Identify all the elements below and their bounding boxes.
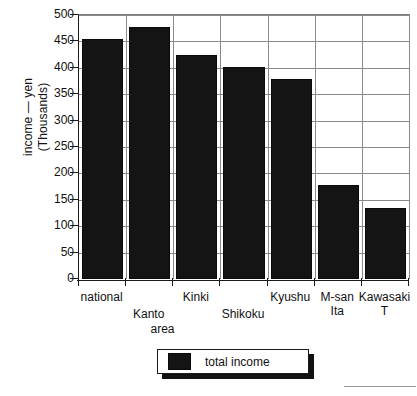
x-tick-mark-5: [314, 278, 315, 286]
x-axis-title-text: area: [150, 322, 174, 336]
legend-swatch-total-income: [168, 353, 191, 370]
gridline-h-500: [79, 15, 409, 16]
y-tick-mark-250: [70, 146, 78, 147]
y-tick-label-200: 200: [30, 166, 74, 178]
x-label-line: Kawasaki: [344, 290, 417, 304]
bar-chart-figure: income — yen (Thousands) 500450400350300…: [0, 0, 417, 396]
gridline-v-1: [126, 15, 127, 279]
legend-label-total-income: total income: [205, 356, 270, 368]
y-tick-label-100: 100: [30, 219, 74, 231]
gridline-v-7: [409, 15, 410, 279]
x-tick-mark-1: [125, 278, 126, 286]
y-tick-label-150: 150: [30, 193, 74, 205]
y-tick-label-50: 50: [30, 246, 74, 258]
x-tick-mark-6: [361, 278, 362, 286]
gridline-v-5: [315, 15, 316, 279]
legend-box[interactable]: total income: [157, 349, 309, 374]
y-tick-mark-200: [70, 172, 78, 173]
x-tick-mark-7: [408, 278, 409, 286]
bar-shikoku[interactable]: [223, 67, 264, 279]
x-label-line: national: [62, 290, 142, 304]
x-label-line: Kinki: [156, 290, 236, 304]
x-tick-mark-0: [78, 278, 79, 286]
x-label-line: Shikoku: [203, 307, 283, 321]
x-axis-label-shikoku: Shikoku: [203, 307, 283, 321]
y-tick-label-0: 0: [30, 272, 74, 284]
x-axis-label-kawasaki-t: KawasakiT: [344, 290, 417, 318]
plot-inner: [79, 15, 409, 279]
y-tick-mark-300: [70, 120, 78, 121]
x-tick-mark-3: [219, 278, 220, 286]
bar-kinki[interactable]: [176, 55, 217, 279]
x-axis-label-kinki: Kinki: [156, 290, 236, 304]
x-tick-mark-2: [172, 278, 173, 286]
y-tick-mark-450: [70, 40, 78, 41]
y-tick-label-500: 500: [30, 8, 74, 20]
gridline-v-4: [268, 15, 269, 279]
y-tick-label-300: 300: [30, 114, 74, 126]
y-tick-label-250: 250: [30, 140, 74, 152]
y-axis-tick-labels: 500450400350300250200150100500: [30, 0, 74, 396]
bar-kyushu[interactable]: [271, 79, 312, 279]
y-tick-mark-50: [70, 252, 78, 253]
x-tick-mark-4: [267, 278, 268, 286]
y-tick-label-400: 400: [30, 61, 74, 73]
gridline-v-3: [220, 15, 221, 279]
x-axis-label-kanto: Kanto: [109, 307, 189, 321]
y-tick-mark-150: [70, 199, 78, 200]
x-axis-baseline: [77, 280, 409, 281]
gridline-v-6: [362, 15, 363, 279]
x-label-line: Kanto: [109, 307, 189, 321]
y-tick-mark-350: [70, 93, 78, 94]
x-axis-label-national: national: [62, 290, 142, 304]
y-tick-label-450: 450: [30, 34, 74, 46]
bar-m-san-ita[interactable]: [318, 185, 359, 279]
x-label-line: T: [344, 304, 417, 318]
y-tick-mark-400: [70, 67, 78, 68]
y-tick-mark-100: [70, 225, 78, 226]
y-tick-label-350: 350: [30, 87, 74, 99]
bar-kawasaki-t[interactable]: [365, 208, 406, 279]
plot-area: [78, 14, 410, 279]
x-axis-title: area: [0, 322, 417, 336]
scan-artifact-line: [344, 386, 416, 387]
gridline-v-2: [173, 15, 174, 279]
bar-kanto[interactable]: [129, 27, 170, 279]
bar-national[interactable]: [82, 39, 123, 279]
y-tick-mark-500: [70, 14, 78, 15]
